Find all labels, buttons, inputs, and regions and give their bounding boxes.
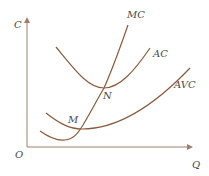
avc-label: AVC: [173, 79, 196, 90]
x-axis-label: Q: [192, 159, 200, 170]
ac-label: AC: [152, 48, 168, 59]
y-axis-label: C: [14, 19, 22, 30]
point-n-label: N: [102, 90, 113, 101]
point-m-label: M: [67, 114, 79, 125]
cost-curves-chart: C O Q MC AC AVC M N: [0, 0, 209, 176]
mc-label: MC: [126, 9, 145, 20]
origin-label: O: [15, 149, 23, 160]
ac-curve: [56, 47, 150, 88]
